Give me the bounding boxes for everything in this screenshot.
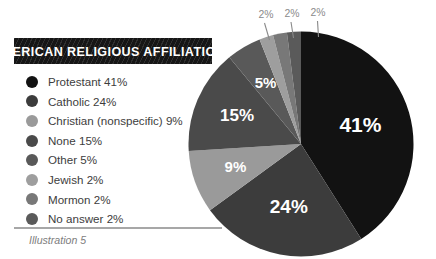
chart-legend: Protestant 41% Catholic 24% Christian (n… — [26, 72, 211, 229]
legend-item-label: None 15% — [48, 135, 102, 147]
callout-label: 2% — [284, 8, 299, 19]
legend-item-catholic: Catholic 24% — [26, 92, 211, 112]
legend-swatch-icon — [26, 76, 38, 88]
legend-swatch-icon — [26, 193, 38, 205]
pie-slice-group — [188, 32, 413, 257]
legend-swatch-icon — [26, 95, 38, 107]
legend-item-other: Other 5% — [26, 150, 211, 170]
pie-slice-label: 15% — [220, 106, 254, 125]
callout-label: 2% — [258, 9, 273, 20]
pie-chart-svg: 41%24%9%15%5% — [188, 31, 414, 257]
legend-item-label: Jewish 2% — [48, 174, 103, 186]
legend-item-label: Other 5% — [48, 154, 97, 166]
legend-item-label: Protestant 41% — [48, 76, 127, 88]
legend-swatch-icon — [26, 213, 38, 225]
pie-slice-label: 9% — [225, 158, 247, 175]
legend-item-no-answer: No answer 2% — [26, 209, 211, 229]
legend-item-label: Christian (nonspecific) 9% — [48, 115, 183, 127]
pie-slice-label: 24% — [270, 196, 308, 217]
legend-swatch-icon — [26, 174, 38, 186]
pie-slice-label: 5% — [255, 74, 277, 91]
legend-swatch-icon — [26, 115, 38, 127]
pie-slice-label: 41% — [339, 113, 381, 136]
legend-item-jewish: Jewish 2% — [26, 170, 211, 190]
illustration-figure: AMERICAN RELIGIOUS AFFILIATIONS Protesta… — [0, 0, 436, 259]
chart-title-banner: AMERICAN RELIGIOUS AFFILIATIONS — [14, 38, 212, 64]
legend-item-label: Catholic 24% — [48, 96, 116, 108]
legend-item-protestant: Protestant 41% — [26, 72, 211, 92]
legend-item-christian-nonspecific: Christian (nonspecific) 9% — [26, 111, 211, 131]
legend-swatch-icon — [26, 135, 38, 147]
figure-caption: Illustration 5 — [29, 234, 86, 246]
page-title: AMERICAN RELIGIOUS AFFILIATIONS — [21, 38, 205, 64]
pie-chart: 41%24%9%15%5% — [188, 31, 414, 257]
legend-item-label: No answer 2% — [48, 213, 123, 225]
legend-item-label: Mormon 2% — [48, 194, 111, 206]
callout-label: 2% — [310, 7, 325, 18]
legend-swatch-icon — [26, 154, 38, 166]
legend-item-none: None 15% — [26, 131, 211, 151]
legend-item-mormon: Mormon 2% — [26, 190, 211, 210]
